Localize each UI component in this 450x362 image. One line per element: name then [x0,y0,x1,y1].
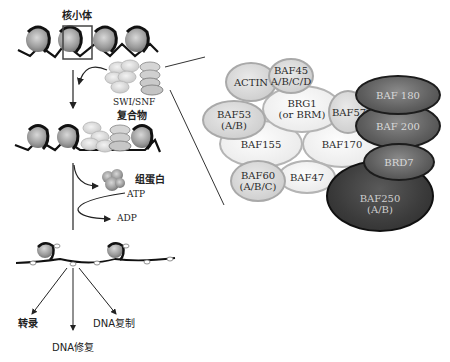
baf250-label: BAF250(A/B) [360,193,401,215]
histone-release-arrow [74,165,98,186]
baf53-label: BAF53(A/B) [217,109,251,131]
brd7-label: BRD7 [384,157,413,168]
swi-snf-label: SWI/SNF [113,98,155,108]
subunit-baf53: BAF53(A/B) [202,100,266,140]
baf180-label: BAF 180 [376,90,420,101]
baf170-label: BAF170 [322,139,363,150]
swi-snf-complex-icon [105,60,163,95]
nucleosome-label: 核小体 [62,10,92,21]
subunit-baf60: BAF60(A/B/C) [230,160,286,202]
outcome-dna-repair: DNA修复 [52,342,94,353]
atp-label: ATP [127,190,145,200]
outcome-transcription: 转录 [18,318,38,329]
arrow-dna-replication [79,268,116,314]
connector-line-top [165,57,205,67]
binding-arrow [79,67,107,84]
baf47-label: BAF47 [290,172,324,183]
open-chromatin [16,242,175,266]
complex-label: 复合物 [117,110,147,121]
nucleosome-array-top [18,26,158,59]
subunit-baf45: BAF45A/B/C/D [268,58,314,94]
baf60-label: BAF60(A/B/C) [240,170,277,192]
actin-label: ACTIN [234,77,268,88]
swi-snf-diagram: 核小体 SWI/SNF 复合物 组蛋白 ATP ADP 转录 DNA修复 DNA… [0,0,450,362]
baf45-label: BAF45A/B/C/D [271,65,311,87]
subunit-brd7: BRD7 [363,143,435,181]
nucleosome-array-remodeling [15,122,160,152]
histone-icon [102,169,125,191]
histone-label: 组蛋白 [135,174,165,185]
baf200-label: BAF 200 [376,121,420,132]
baf155-label: BAF155 [241,139,282,150]
subunit-baf180: BAF 180 [355,75,441,115]
arrow-transcription [32,268,67,314]
outcome-dna-replication: DNA复制 [93,318,135,329]
adp-label: ADP [117,214,137,224]
brg1-label: BRG1(or BRM) [279,98,326,120]
